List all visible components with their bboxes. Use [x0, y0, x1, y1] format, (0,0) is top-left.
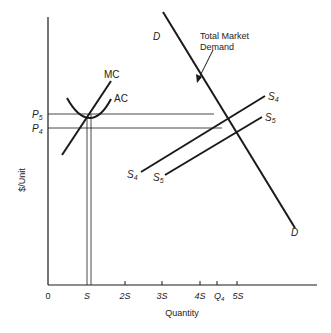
supply-curve-s4: [141, 96, 265, 172]
annotation-arrow-line: [199, 50, 213, 78]
p5-label: P5: [32, 109, 43, 121]
x-tick-label-s: S: [84, 291, 90, 301]
ac-label: AC: [114, 93, 128, 104]
x-tick-label-4s: 4S: [194, 291, 205, 301]
demand-label-top: D: [153, 31, 160, 42]
supply-curve-s5: [165, 117, 262, 175]
p4-label: P4: [32, 123, 43, 135]
demand-label-bottom: D: [291, 227, 298, 238]
s4-label-left: S4: [127, 169, 138, 181]
x-tick-label-3s: 3S: [156, 291, 167, 301]
y-axis-label: $/Unit: [17, 168, 27, 192]
annotation-line-2: Demand: [200, 42, 234, 52]
annotation-line-1: Total Market: [200, 31, 250, 41]
s5-label-right: S5: [265, 112, 276, 124]
x-tick-label-q4: Q4: [214, 291, 225, 302]
mc-label: MC: [104, 69, 120, 80]
s5-label-left: S5: [153, 172, 164, 184]
x-tick-label-0: 0: [45, 291, 50, 301]
s4-label-right: S4: [268, 91, 279, 103]
x-tick-label-5s: 5S: [232, 291, 243, 301]
economics-diagram: MC AC D D S4 S5 S4 S5 Total Market Deman…: [0, 0, 331, 333]
marginal-cost-curve: [62, 81, 111, 155]
x-axis-label: Quantity: [165, 308, 199, 318]
x-tick-label-2s: 2S: [118, 291, 130, 301]
